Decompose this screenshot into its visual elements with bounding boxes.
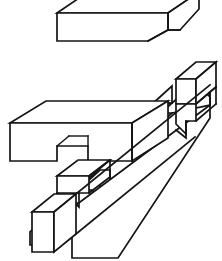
- technical-drawing-canvas: [0, 0, 222, 261]
- lower-cube-front-face: [32, 212, 54, 252]
- top-bar-front-face: [57, 13, 168, 41]
- upper-cube-front-face: [176, 79, 196, 104]
- middle-tenon-front-face: [57, 176, 89, 193]
- part-front-bar: [10, 101, 168, 161]
- line-art-illustration: [0, 0, 222, 261]
